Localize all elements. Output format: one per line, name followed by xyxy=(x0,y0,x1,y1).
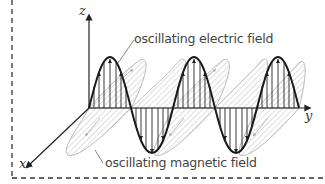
magnetic-field-wave xyxy=(66,59,305,155)
z-axis-label: z xyxy=(79,3,86,18)
magnetic-field-label: oscillating magnetic field xyxy=(105,155,257,170)
magnetic-label-leader xyxy=(95,150,103,163)
x-axis-label: x xyxy=(19,156,26,171)
electric-label-leader xyxy=(118,40,134,63)
em-wave-diagram: z y x oscillating electric field oscilla… xyxy=(0,0,325,184)
electric-field-label: oscillating electric field xyxy=(134,31,273,46)
y-axis-label: y xyxy=(305,108,312,123)
